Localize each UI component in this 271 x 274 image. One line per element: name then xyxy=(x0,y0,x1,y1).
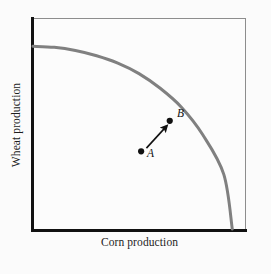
x-axis-title: Corn production xyxy=(33,236,246,248)
x-axis-line xyxy=(31,229,247,232)
y-axis-title: Wheat production xyxy=(11,82,23,166)
plot-frame-right xyxy=(245,18,246,230)
plot-area xyxy=(33,19,245,229)
ppf-figure: A B Wheat production Corn production xyxy=(0,0,271,274)
point-b-label: B xyxy=(177,107,184,119)
point-a-label: A xyxy=(147,147,154,159)
y-axis-title-container: Wheat production xyxy=(0,0,33,249)
x-axis-title-container: Corn production xyxy=(33,236,246,248)
plot-frame-top xyxy=(33,18,246,19)
